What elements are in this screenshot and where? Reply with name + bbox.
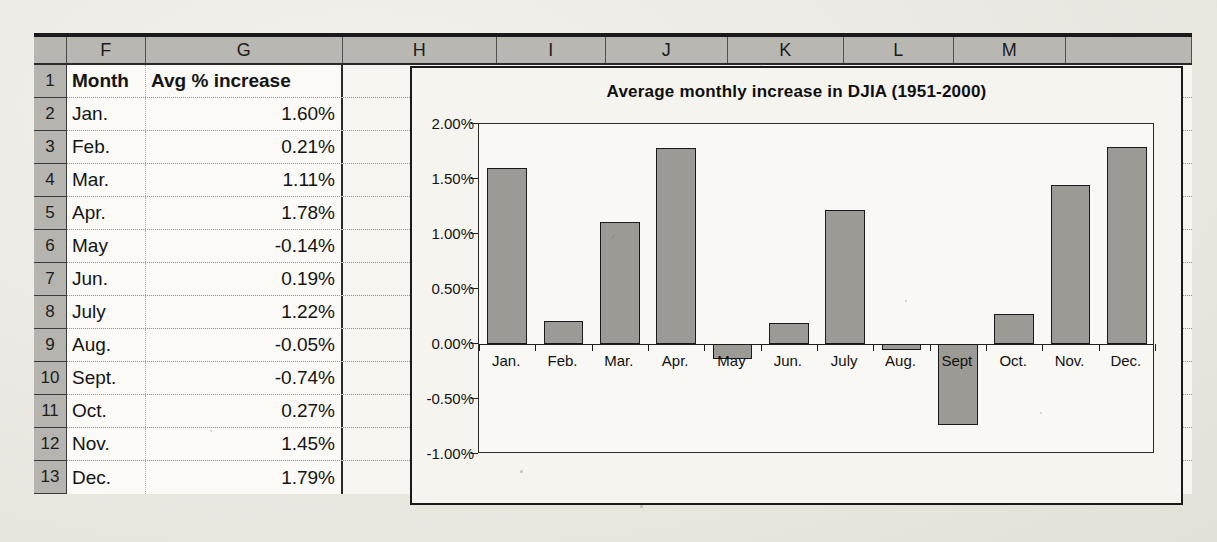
bar-apr[interactable] [656, 148, 695, 344]
cell-g3-text: 0.21% [281, 136, 335, 158]
cell-f5[interactable]: Apr. [67, 197, 146, 229]
bar-oct[interactable] [994, 314, 1033, 344]
cell-g2[interactable]: 1.60% [146, 98, 343, 130]
cell-g7[interactable]: 0.19% [146, 263, 343, 295]
y-axis-tick-mark [471, 343, 478, 344]
cell-f6[interactable]: May [67, 230, 146, 262]
bar-jan[interactable] [487, 168, 526, 344]
row-header-8[interactable]: 8 [34, 296, 67, 329]
column-header-j[interactable]: J [606, 37, 728, 63]
y-axis-tick-mark [471, 233, 478, 234]
cell-g5-text: 1.78% [281, 202, 335, 224]
column-header-n[interactable] [1066, 37, 1192, 63]
y-axis-tick-label: 2.00% [412, 115, 474, 132]
column-header-g[interactable]: G [146, 37, 343, 63]
column-header-i-label: I [548, 40, 554, 61]
bar-dec[interactable] [1107, 147, 1146, 344]
row-header-10[interactable]: 10 [34, 362, 67, 395]
cell-f12[interactable]: Nov. [67, 428, 146, 460]
row-header-6[interactable]: 6 [34, 230, 67, 263]
x-axis-tick-label: Aug. [885, 352, 916, 369]
column-header-k[interactable]: K [728, 37, 844, 63]
cell-g4[interactable]: 1.11% [146, 164, 343, 196]
column-header-f[interactable]: F [67, 37, 146, 63]
scan-speck [300, 120, 302, 122]
row-header-13[interactable]: 13 [34, 461, 67, 494]
cell-f4[interactable]: Mar. [67, 164, 146, 196]
row-header-4-label: 4 [45, 170, 54, 190]
scan-speck [1040, 412, 1042, 414]
cell-f9[interactable]: Aug. [67, 329, 146, 361]
x-axis-tick-mark [535, 344, 536, 351]
cell-f1[interactable]: Month [67, 65, 146, 97]
column-header-l[interactable]: L [844, 37, 954, 63]
row-header-5[interactable]: 5 [34, 197, 67, 230]
cell-f11[interactable]: Oct. [67, 395, 146, 427]
cell-g10[interactable]: -0.74% [146, 362, 343, 394]
row-header-11-label: 11 [41, 401, 59, 421]
x-axis-tick-label: Jun. [774, 352, 802, 369]
cell-g1[interactable]: Avg % increase [146, 65, 343, 97]
x-axis-tick-label: May [717, 352, 745, 369]
x-axis-tick-mark [1099, 344, 1100, 351]
column-header-m[interactable]: M [954, 37, 1066, 63]
column-header-i[interactable]: I [497, 37, 606, 63]
column-header-j-label: J [662, 40, 672, 61]
cell-g8[interactable]: 1.22% [146, 296, 343, 328]
y-axis-tick-mark [471, 453, 478, 454]
cell-f2[interactable]: Jan. [67, 98, 146, 130]
cell-f8-text: July [72, 301, 106, 323]
row-header-9[interactable]: 9 [34, 329, 67, 362]
x-axis-tick-mark [592, 344, 593, 351]
cell-g9[interactable]: -0.05% [146, 329, 343, 361]
scan-speck [760, 64, 762, 66]
cell-g2-text: 1.60% [281, 103, 335, 125]
scan-speck [905, 300, 907, 302]
x-axis-tick-mark [1155, 344, 1156, 351]
bar-jun[interactable] [769, 323, 808, 344]
bar-mar[interactable] [600, 222, 639, 344]
column-header-f-label: F [100, 40, 112, 61]
select-all-corner[interactable] [34, 37, 67, 63]
cell-g5[interactable]: 1.78% [146, 197, 343, 229]
row-header-8-label: 8 [45, 302, 54, 322]
cell-f10[interactable]: Sept. [67, 362, 146, 394]
scan-speck [210, 430, 212, 432]
cell-f7[interactable]: Jun. [67, 263, 146, 295]
cell-g13[interactable]: 1.79% [146, 461, 343, 494]
row-header-1[interactable]: 1 [34, 65, 67, 98]
row-header-3[interactable]: 3 [34, 131, 67, 164]
x-axis-tick-label: July [831, 352, 858, 369]
cell-f13[interactable]: Dec. [67, 461, 146, 494]
x-axis-tick-mark [479, 344, 480, 351]
y-axis-tick-mark [471, 398, 478, 399]
row-header-column: 1 2 3 4 5 6 7 8 9 10 11 12 13 [34, 65, 67, 494]
cell-g9-text: -0.05% [275, 334, 335, 356]
row-header-10-label: 10 [41, 368, 60, 388]
bar-feb[interactable] [544, 321, 583, 344]
bar-july[interactable] [825, 210, 864, 344]
x-axis-tick-mark [986, 344, 987, 351]
cell-g4-text: 1.11% [283, 169, 335, 191]
row-header-4[interactable]: 4 [34, 164, 67, 197]
row-header-11[interactable]: 11 [34, 395, 67, 428]
cell-g3[interactable]: 0.21% [146, 131, 343, 163]
bar-nov[interactable] [1051, 185, 1090, 345]
cell-g6[interactable]: -0.14% [146, 230, 343, 262]
cell-f8[interactable]: July [67, 296, 146, 328]
row-header-9-label: 9 [45, 335, 54, 355]
row-header-7[interactable]: 7 [34, 263, 67, 296]
cell-g11[interactable]: 0.27% [146, 395, 343, 427]
y-axis-tick-label: -1.00% [412, 445, 474, 462]
row-header-2[interactable]: 2 [34, 98, 67, 131]
zero-axis-line [479, 344, 1153, 345]
y-axis-tick-label: 1.50% [412, 170, 474, 187]
row-header-12[interactable]: 12 [34, 428, 67, 461]
column-header-h[interactable]: H [343, 37, 497, 63]
cell-g7-text: 0.19% [281, 268, 335, 290]
chart-object[interactable]: Average monthly increase in DJIA (1951-2… [410, 66, 1183, 505]
column-header-m-label: M [1002, 40, 1018, 61]
cell-g12[interactable]: 1.45% [146, 428, 343, 460]
bar-aug[interactable] [882, 344, 921, 350]
cell-f3[interactable]: Feb. [67, 131, 146, 163]
